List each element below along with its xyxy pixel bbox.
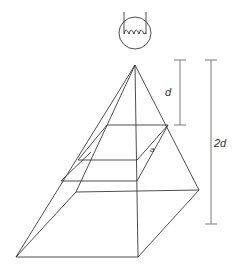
area-label: a bbox=[150, 145, 155, 154]
label-2d: 2d bbox=[213, 137, 227, 149]
filament-icon bbox=[124, 30, 146, 34]
dimension-d bbox=[174, 60, 186, 125]
light-bulb-icon bbox=[119, 12, 151, 49]
inverse-square-diagram: a d 2d bbox=[0, 0, 241, 270]
label-d: d bbox=[165, 86, 172, 98]
light-pyramid bbox=[16, 65, 199, 257]
